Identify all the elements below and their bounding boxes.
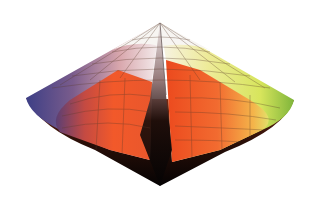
double-cone-diagram — [0, 0, 311, 197]
color-solid-figure — [0, 0, 311, 197]
